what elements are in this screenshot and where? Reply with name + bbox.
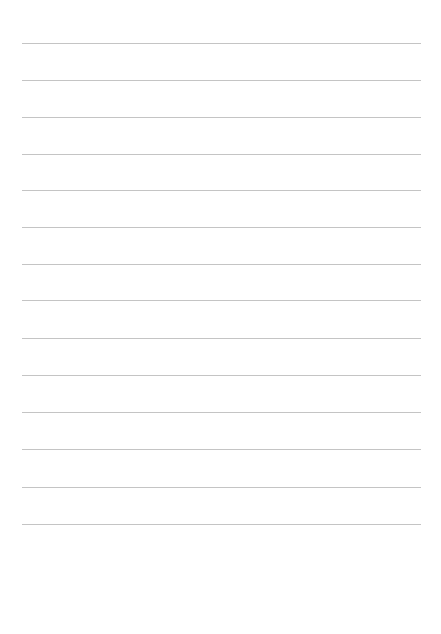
ruled-line — [22, 338, 421, 339]
lined-paper-page — [0, 0, 441, 634]
ruled-line — [22, 190, 421, 191]
ruled-line — [22, 449, 421, 450]
ruled-line — [22, 154, 421, 155]
ruled-line — [22, 227, 421, 228]
ruled-line — [22, 80, 421, 81]
ruled-line — [22, 412, 421, 413]
ruled-line — [22, 487, 421, 488]
ruled-line — [22, 117, 421, 118]
ruled-line — [22, 524, 421, 525]
ruled-line — [22, 43, 421, 44]
ruled-line — [22, 375, 421, 376]
ruled-line — [22, 264, 421, 265]
ruled-line — [22, 300, 421, 301]
